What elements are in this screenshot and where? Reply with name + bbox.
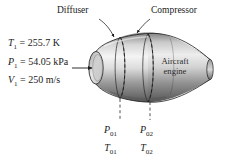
station-02-temperature-subscript: 02 bbox=[146, 148, 153, 156]
station-01-pressure-subscript: 01 bbox=[110, 130, 117, 138]
aircraft-engine-label: Aircraft engine bbox=[152, 57, 198, 77]
station-02-pressure: P02 bbox=[140, 123, 153, 141]
inlet-inner-lip bbox=[93, 54, 103, 81]
compressor-label: Compressor bbox=[151, 6, 197, 16]
diffuser-leader-arrow-icon bbox=[99, 19, 114, 37]
temperature-equals: = bbox=[20, 37, 26, 48]
station-01-temperature-subscript: 01 bbox=[110, 148, 117, 156]
pressure-subscript: 1 bbox=[14, 62, 18, 70]
pressure-value: 54.05 bbox=[28, 56, 51, 67]
station-01-pressure: P01 bbox=[104, 123, 117, 141]
inlet-temperature-line: T1 = 255.7 K bbox=[8, 36, 68, 55]
temperature-subscript: 1 bbox=[14, 43, 18, 51]
temperature-unit: K bbox=[53, 37, 60, 48]
temperature-value: 255.7 bbox=[28, 37, 51, 48]
velocity-value: 250 bbox=[28, 74, 43, 85]
engine-diagram-figure: Diffuser Compressor Aircraft engine T1 =… bbox=[0, 0, 226, 163]
station-02-pressure-subscript: 02 bbox=[146, 130, 153, 138]
station-01-temperature: T01 bbox=[104, 141, 117, 159]
station-02-temperature: T02 bbox=[140, 141, 153, 159]
velocity-subscript: 1 bbox=[14, 80, 18, 88]
station-01-labels: P01 T01 bbox=[104, 123, 117, 159]
station-02-labels: P02 T02 bbox=[140, 123, 153, 159]
inlet-velocity-line: V1 = 250 m/s bbox=[8, 73, 68, 92]
velocity-equals: = bbox=[20, 74, 26, 85]
compressor-leader-arrow-icon bbox=[137, 19, 150, 33]
pressure-equals: = bbox=[20, 56, 26, 67]
inlet-state-block: T1 = 255.7 K P1 = 54.05 kPa V1 = 250 m/s bbox=[8, 36, 68, 92]
pressure-unit: kPa bbox=[53, 56, 68, 67]
velocity-unit: m/s bbox=[46, 74, 60, 85]
diffuser-barrel bbox=[96, 34, 148, 100]
nozzle-exit-face bbox=[207, 59, 213, 79]
inlet-pressure-line: P1 = 54.05 kPa bbox=[8, 55, 68, 74]
diffuser-label: Diffuser bbox=[57, 6, 88, 16]
